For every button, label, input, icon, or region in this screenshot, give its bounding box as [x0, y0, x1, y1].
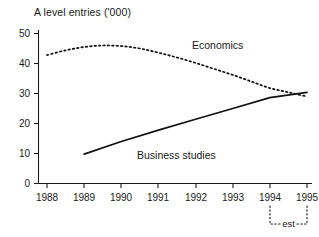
line-chart-plot: 0 10 20 30 40 50 1988 1989 1990 1991 199…: [0, 0, 319, 237]
y-tick-label: 50: [19, 28, 31, 39]
x-tick-label: 1994: [259, 192, 282, 203]
chart-container: A level entries ('000) 0 10 20 30 40 50: [0, 0, 319, 237]
x-tick-label: 1993: [222, 192, 245, 203]
y-tick-label: 10: [19, 148, 31, 159]
x-tick-label: 1992: [185, 192, 208, 203]
estimate-label: est: [282, 218, 295, 229]
y-tick-label: 0: [24, 178, 30, 189]
y-tick-label: 40: [19, 58, 31, 69]
x-tick-label: 1989: [73, 192, 96, 203]
x-tick-label: 1995: [296, 192, 319, 203]
y-tick-label: 20: [19, 118, 31, 129]
series-label-economics: Economics: [192, 39, 243, 51]
y-axis-ticks: [34, 34, 39, 184]
x-tick-label: 1990: [110, 192, 133, 203]
x-axis-ticks: [47, 184, 307, 189]
y-axis-tick-labels: 0 10 20 30 40 50: [19, 28, 31, 189]
y-tick-label: 30: [19, 88, 31, 99]
x-tick-label: 1991: [147, 192, 170, 203]
x-axis-tick-labels: 1988 1989 1990 1991 1992 1993 1994 1995: [36, 192, 319, 203]
series-label-business-studies: Business studies: [137, 149, 216, 161]
x-tick-label: 1988: [36, 192, 59, 203]
series-line-business-studies: [84, 92, 307, 154]
series-line-economics: [47, 45, 307, 96]
